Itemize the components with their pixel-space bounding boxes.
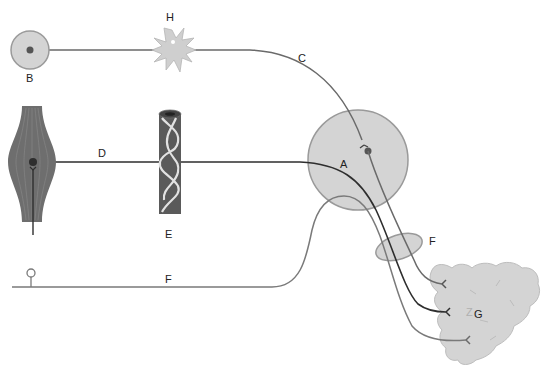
fiber-f [12,196,466,341]
muscle-ending-dot [29,158,37,166]
structure-a-circle [308,110,408,210]
label-c: C [298,52,306,64]
structure-h [152,28,196,72]
label-f-nerve: F [165,273,172,285]
structure-b-dot [27,47,34,54]
structure-a [308,110,408,210]
label-h: H [166,11,174,23]
ganglion-f [372,228,425,266]
sensory-receptor [27,269,35,287]
label-d: D [98,147,106,159]
label-g: G [474,308,483,320]
label-f-ganglion: F [429,235,436,247]
structure-e-vessel [159,110,181,214]
vessel-lumen-inner [165,112,175,116]
ganglion-f-ellipse [372,228,425,266]
receptor-ending-icon [27,269,35,277]
label-e: E [165,228,172,240]
label-a: A [340,158,348,170]
structure-h-cell [152,28,196,72]
label-b: B [26,72,33,84]
muscle-spindle [8,106,56,235]
structure-h-nucleus [171,40,175,44]
nerve-pathway-diagram: Z H [0,0,546,378]
fiber-c [30,50,362,140]
structure-b [11,31,49,69]
gland-faint-mark: Z [466,306,473,318]
